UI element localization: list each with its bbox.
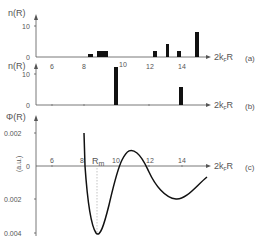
ytick-0.002: 0.002 [4,130,22,137]
bars-a [88,32,199,57]
xtick-12-a: 12 [146,63,154,70]
bar [166,44,169,57]
panel-c: Φ(R) 0.002 0 0.002 0.004 (a.u.) 6 8 10 1… [4,112,255,237]
ylabel-b: n(R) [8,61,26,71]
rm-annotation: Rm [92,156,105,167]
bar [88,54,93,57]
xtick-8-c: 8 [80,157,84,164]
phi-curve [84,133,207,234]
figure: n(R) 10 0 2kFR (a) 6 8 10 12 14 n(R) 10 … [0,0,267,249]
bars-b [114,67,183,105]
y-axis-arrow-a [34,14,38,20]
ylabel-a: n(R) [8,8,26,18]
ytick-0-b: 0 [26,102,30,109]
xlabel-a: 2kFR [214,52,234,63]
ytick-10-a: 10 [22,23,30,30]
xlabel-b: 2kFR [214,100,234,111]
panel-label-c: (c) [245,163,255,172]
ytick-neg-0.002: 0.002 [4,196,22,203]
ytick-0: 0 [26,163,30,170]
panel-label-a: (a) [245,54,255,63]
bar [177,51,181,57]
bar [153,51,157,57]
panel-label-b: (b) [245,102,255,111]
xtick-6-c: 6 [50,157,54,164]
xtick-10-a: 10 [119,61,127,68]
bar [179,87,183,105]
panel-a: n(R) 10 0 2kFR (a) 6 8 10 12 14 [8,8,255,70]
panel-b: n(R) 10 0 2kFR (b) [8,61,255,111]
ylabel-c: Φ(R) [6,112,26,122]
xtick-10-c: 10 [112,157,120,164]
xtick-12-c: 12 [146,157,154,164]
xtick-6-a: 6 [50,63,54,70]
unit-label: (a.u.) [15,156,23,172]
xtick-14-a: 14 [178,63,186,70]
xtick-14-c: 14 [178,157,186,164]
bar [97,51,108,57]
bar [114,67,118,105]
ytick-0-a: 0 [26,54,30,61]
ytick-neg-0.004: 0.004 [4,230,22,237]
xlabel-c: 2kFR [214,161,234,172]
xtick-8-a: 8 [82,63,86,70]
bar [195,32,199,57]
x-axis-arrow-a [206,55,211,59]
ytick-10-b: 10 [22,71,30,78]
